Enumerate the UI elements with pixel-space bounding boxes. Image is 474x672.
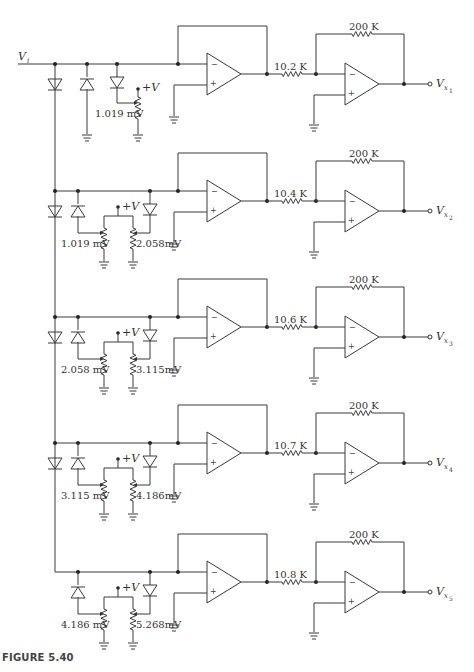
input-resistor-label: 10.8 K [274,569,307,580]
inverting-amp-opamp-2: −+ [345,190,379,232]
inverting-amp-opamp-4: −+ [345,442,379,484]
svg-text:5: 5 [449,595,453,602]
inverting-amp-opamp-5: −+ [345,571,379,613]
svg-text:−: − [349,449,356,458]
svg-text:+: + [348,89,355,98]
junction-dot [176,62,180,66]
input-resistor-icon [282,580,302,585]
svg-text:4: 4 [449,466,453,473]
svg-text:+: + [210,79,217,88]
output-label-1: Vx1 [436,77,453,94]
svg-text:x: x [444,463,448,471]
svg-text:2: 2 [449,214,453,221]
diode-up-icon [71,458,85,469]
supply-label: +V [142,81,160,94]
input-resistor-label: 10.7 K [274,440,307,451]
diode-down-icon [143,585,157,596]
input-resistor-label: 10.6 K [274,314,307,325]
ground-icon [309,504,319,510]
feedback-resistor-label: 200 K [349,148,379,159]
output-terminal-2 [428,209,432,213]
svg-text:−: − [349,578,356,587]
junction-dot [402,461,406,465]
svg-text:+: + [210,458,217,467]
junction-dot [402,209,406,213]
svg-text:x: x [444,337,448,345]
ground-icon [309,125,319,131]
junction-dot [53,315,57,319]
ref-voltage-low-label: 1.019 mV [61,238,110,249]
input-label: V [18,50,27,63]
diode-down-icon [143,204,157,215]
diode-up-icon [71,587,85,598]
ref-voltage-low-label: 4.186 mV [61,619,110,630]
ref-voltage-high-label: 4.186mV [136,490,182,501]
input-resistor-icon [282,199,302,204]
junction-dot [53,62,57,66]
diode-down-icon [143,456,157,467]
ref-voltage-high-label: 5.268mV [136,619,182,630]
input-resistor-icon [282,72,302,77]
svg-text:+: + [210,206,217,215]
svg-text:+: + [210,587,217,596]
ground-icon [128,514,138,520]
buffer-opamp-1: −+ [207,53,241,95]
inverting-amp-opamp-3: −+ [345,316,379,358]
junction-dot [402,82,406,86]
junction-dot [402,335,406,339]
stage-5: −+10.8 K−+200 KVx5+V4.186 mV5.268mV [55,529,453,649]
stage-4: −+10.7 K−+200 KVx4+V3.115 mV4.186mV [48,400,453,520]
buffer-opamp-4: −+ [207,432,241,474]
feedback-resistor-icon [352,285,372,290]
ref-voltage-high-label: 3.115mV [136,364,182,375]
junction-dot [176,570,180,574]
feedback-resistor-label: 200 K [349,274,379,285]
ground-icon [128,388,138,394]
svg-text:−: − [211,60,218,69]
svg-text:−: − [211,313,218,322]
ground-icon [169,117,179,123]
input-resistor-icon [282,451,302,456]
svg-text:1: 1 [449,87,453,94]
buffer-opamp-2: −+ [207,180,241,222]
svg-text:−: − [349,197,356,206]
piecewise-linear-circuit-diagram: Vi−+10.2 K−+200 KVx1+V1.019 mV−+10.4 K−+… [0,0,474,672]
junction-dot [176,189,180,193]
ground-icon [309,252,319,258]
output-label-3: Vx3 [436,330,453,347]
output-terminal-5 [428,590,432,594]
figure-caption: FIGURE 5.40 [2,652,74,663]
ground-icon [133,135,143,141]
input-resistor-label: 10.4 K [274,188,307,199]
output-label-4: Vx4 [436,456,453,473]
feedback-resistor-label: 200 K [349,400,379,411]
svg-text:+: + [348,342,355,351]
ground-icon [309,378,319,384]
junction-dot [53,189,57,193]
diode-up-icon [80,79,94,90]
svg-text:−: − [211,187,218,196]
svg-text:3: 3 [449,340,453,347]
feedback-resistor-icon [352,411,372,416]
output-terminal-1 [428,82,432,86]
feedback-resistor-icon [352,540,372,545]
diode-down-icon [143,330,157,341]
buffer-opamp-5: −+ [207,561,241,603]
supply-label: +V [122,452,140,465]
svg-text:+: + [348,468,355,477]
input-terminal: Vi [18,50,55,65]
svg-text:−: − [349,323,356,332]
diode-up-icon [71,206,85,217]
ref-voltage-high-label: 2.058mV [136,238,182,249]
ref-voltage-label: 1.019 mV [95,108,144,119]
ground-icon [128,262,138,268]
supply-label: +V [122,200,140,213]
output-label-5: Vx5 [436,585,453,602]
input-resistor-label: 10.2 K [274,61,307,72]
stage-2: −+10.4 K−+200 KVx2+V1.019 mV2.058mV [48,148,453,268]
svg-text:+: + [210,332,217,341]
svg-text:−: − [211,568,218,577]
output-terminal-3 [428,335,432,339]
ground-icon [128,643,138,649]
inverting-amp-opamp-1: −+ [345,63,379,105]
